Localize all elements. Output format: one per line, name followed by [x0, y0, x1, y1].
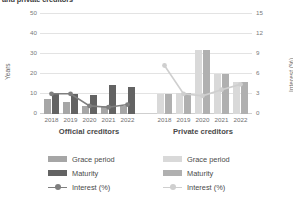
bar-grace-period-2020 [195, 50, 202, 114]
legend-swatch-icon [48, 156, 67, 162]
bar-maturity-2019 [71, 94, 78, 114]
legend-label: Interest (%) [187, 183, 225, 192]
bar-group-2019 [174, 13, 193, 114]
bar-maturity-2021 [109, 85, 116, 114]
y-tick-left: 20 [15, 70, 37, 76]
y-tick-left: 50 [15, 10, 37, 16]
bar-maturity-2018 [52, 94, 59, 114]
legend-label: Maturity [72, 169, 98, 178]
bar-grace-period-2018 [44, 99, 51, 114]
bar-maturity-2022 [241, 82, 248, 114]
x-tick-2019: 2019 [174, 116, 193, 124]
legend-item-grace-period[interactable]: Grace period [48, 152, 115, 166]
bar-maturity-2018 [165, 94, 172, 114]
y-axis-right-title: Interest (%) [288, 58, 293, 92]
bar-grace-period-2021 [101, 106, 108, 114]
y-tick-left: 10 [15, 90, 37, 96]
bar-grace-period-2021 [214, 74, 221, 114]
x-tick-2022: 2022 [118, 116, 137, 124]
y-tick-left: 40 [15, 30, 37, 36]
bar-grace-period-2018 [157, 94, 164, 114]
bar-maturity-2021 [222, 74, 229, 114]
bar-group-2022 [231, 13, 250, 114]
bar-group-2021 [99, 13, 118, 114]
x-tick-2021: 2021 [99, 116, 118, 124]
bar-maturity-2019 [184, 93, 191, 114]
legend-item-interest[interactable]: Interest (%) [48, 180, 115, 194]
legend-label: Grace period [187, 155, 230, 164]
legend-label: Grace period [72, 155, 115, 164]
bar-group-2021 [212, 13, 231, 114]
bars-private [155, 13, 250, 114]
y-tick-right: 9 [256, 50, 278, 56]
legend-official: Grace periodMaturityInterest (%) [48, 152, 115, 194]
panel-private-creditors [155, 13, 250, 114]
bar-grace-period-2022 [233, 82, 240, 114]
y-tick-right: 0 [256, 110, 278, 116]
legend-swatch-icon [163, 156, 182, 162]
y-axis-left-ticks: 50 40 30 20 10 0 [15, 13, 37, 114]
x-tick-2018: 2018 [155, 116, 174, 124]
page-title: and private creditors [2, 0, 242, 4]
y-tick-right: 3 [256, 90, 278, 96]
bar-maturity-2020 [203, 50, 210, 114]
x-tick-2022: 2022 [231, 116, 250, 124]
legend-label: Maturity [187, 169, 213, 178]
x-tick-2019: 2019 [61, 116, 80, 124]
x-axis-official: 20182019202020212022 [42, 116, 137, 126]
bar-group-2020 [80, 13, 99, 114]
legend-swatch-icon [163, 170, 182, 176]
y-tick-right: 6 [256, 70, 278, 76]
x-tick-2020: 2020 [80, 116, 99, 124]
bar-maturity-2022 [128, 87, 135, 114]
x-tick-2020: 2020 [193, 116, 212, 124]
bar-group-2018 [155, 13, 174, 114]
chart-root: and private creditors 50 40 30 20 10 0 1… [0, 0, 293, 199]
y-tick-left: 30 [15, 50, 37, 56]
legend-line-marker-icon [48, 184, 67, 191]
bar-group-2019 [61, 13, 80, 114]
legend-swatch-icon [48, 170, 67, 176]
legend-label: Interest (%) [72, 183, 110, 192]
bar-maturity-2020 [90, 95, 97, 114]
bar-grace-period-2019 [176, 93, 183, 114]
bar-group-2018 [42, 13, 61, 114]
y-tick-right: 15 [256, 10, 278, 16]
legend-item-maturity[interactable]: Maturity [48, 166, 115, 180]
bar-group-2020 [193, 13, 212, 114]
legend-item-grace-period[interactable]: Grace period [163, 152, 230, 166]
x-tick-2021: 2021 [212, 116, 231, 124]
legend-item-maturity[interactable]: Maturity [163, 166, 230, 180]
legend-private: Grace periodMaturityInterest (%) [163, 152, 230, 194]
bars-official [42, 13, 137, 114]
y-tick-left: 0 [15, 110, 37, 116]
panel-official-creditors [42, 13, 137, 114]
legend-item-interest[interactable]: Interest (%) [163, 180, 230, 194]
y-axis-left-title: Years [4, 63, 11, 80]
bar-grace-period-2022 [120, 106, 127, 114]
bar-grace-period-2019 [63, 102, 70, 114]
y-axis-right-ticks: 15 12 9 6 3 0 [256, 13, 278, 114]
caption-official-creditors: Official creditors [28, 127, 150, 136]
legend-line-marker-icon [163, 184, 182, 191]
x-axis-private: 20182019202020212022 [155, 116, 250, 126]
caption-private-creditors: Private creditors [142, 127, 264, 136]
bar-grace-period-2020 [82, 106, 89, 114]
bar-group-2022 [118, 13, 137, 114]
x-tick-2018: 2018 [42, 116, 61, 124]
y-tick-right: 12 [256, 30, 278, 36]
